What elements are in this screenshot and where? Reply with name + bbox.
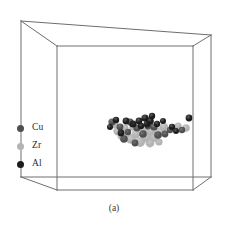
legend-swatch-zr-icon (17, 143, 24, 150)
figure-caption: (a) (0, 203, 228, 213)
atom-zr (155, 138, 162, 145)
atom-al (186, 115, 193, 122)
legend-item-zr: Zr (17, 137, 79, 155)
legend-swatch-cu-icon (17, 125, 24, 132)
atom-zr (146, 139, 155, 148)
cell-edge-bottom-right-diagonal (193, 177, 211, 190)
legend-item-al: Al (17, 155, 79, 173)
atom-cu (179, 127, 185, 133)
cell-edge-top-right-diagonal (193, 35, 211, 46)
atom-al (118, 130, 125, 137)
legend-label-zr: Zr (32, 141, 41, 151)
atom-al (138, 123, 144, 129)
figure-container: Cu Zr Al (a) (0, 0, 228, 229)
atom-cu (125, 129, 131, 135)
cell-edge-bottom-left-diagonal (21, 177, 57, 190)
legend-item-cu: Cu (17, 119, 79, 137)
atom-al (154, 121, 160, 127)
atom-al (144, 121, 151, 128)
atom-al (123, 118, 130, 125)
legend-label-cu: Cu (32, 123, 44, 133)
legend-swatch-al-icon (17, 161, 24, 168)
atom-cluster (107, 113, 192, 148)
atom-al (107, 124, 113, 130)
atom-al (129, 120, 136, 127)
atom-al (160, 118, 166, 124)
atom-cu (139, 130, 147, 138)
atom-al (149, 113, 155, 119)
species-legend: Cu Zr Al (17, 119, 79, 173)
atom-cu (117, 124, 124, 131)
atom-cu (154, 131, 162, 139)
atom-al (173, 128, 179, 134)
atom-al (113, 117, 119, 123)
cell-edge-top-left-diagonal (21, 21, 57, 46)
atomistic-scene (0, 0, 228, 229)
atom-cu (132, 140, 139, 147)
legend-label-al: Al (32, 159, 42, 169)
cell-edge-back-top (21, 21, 211, 35)
